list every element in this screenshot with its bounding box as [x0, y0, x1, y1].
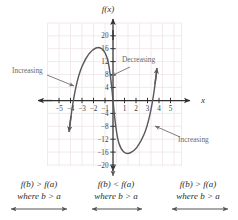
caption-condition: where b > a	[94, 191, 138, 201]
x-tick-label: 5	[169, 105, 173, 113]
annotation-decreasing-middle: Decreasing	[122, 55, 156, 64]
x-tick-label: −3	[78, 105, 86, 113]
caption-increasing-left: f(b) > f(a) where b > a	[11, 179, 67, 209]
y-tick-label: −20	[97, 162, 109, 170]
x-tick-label: 2	[134, 105, 138, 113]
caption-decreasing-middle: f(b) < f(a) where b > a	[92, 168, 142, 209]
x-tick-label: 3	[146, 105, 150, 113]
y-tick-label: −12	[97, 136, 109, 144]
axes	[38, 19, 190, 171]
y-tick-label: 4	[105, 84, 109, 92]
caption-relation: f(b) > f(a)	[21, 179, 58, 189]
y-tick-label: −16	[97, 149, 109, 157]
grid-lines	[48, 23, 182, 166]
x-tick-label: −4	[67, 105, 75, 113]
y-tick-label: −8	[101, 123, 109, 131]
y-axis-label: f(x)	[102, 4, 115, 14]
annotation-increasing-right: Increasing	[178, 135, 209, 144]
graph-svg: f(x) x −5 −4 −3 −2 −1 1 2 3 4 5	[0, 0, 238, 220]
x-tick-label: 4	[157, 105, 161, 113]
annotation-increasing-right-arrow	[155, 126, 180, 137]
caption-condition: where b > a	[176, 191, 220, 201]
x-tick-label: −5	[55, 105, 63, 113]
x-tick-label: 1	[123, 105, 127, 113]
caption-relation: f(b) > f(a)	[180, 179, 217, 189]
x-tick-label: −2	[90, 105, 98, 113]
caption-condition: where b > a	[17, 191, 61, 201]
y-tick-label: 8	[105, 71, 109, 79]
x-axis-label: x	[200, 95, 205, 105]
caption-increasing-right: f(b) > f(a) where b > a	[172, 179, 228, 209]
y-tick-label: 20	[101, 32, 109, 40]
function-increasing-decreasing-figure: f(x) x −5 −4 −3 −2 −1 1 2 3 4 5	[0, 0, 238, 220]
annotation-increasing-left: Increasing	[12, 66, 43, 75]
caption-relation: f(b) < f(a)	[98, 179, 135, 189]
annotation-increasing-left-arrow	[47, 75, 74, 86]
y-tick-label: −4	[101, 110, 109, 118]
